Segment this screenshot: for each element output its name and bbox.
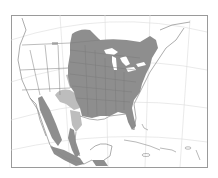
range-map — [0, 0, 218, 178]
map-canvas — [0, 0, 218, 178]
